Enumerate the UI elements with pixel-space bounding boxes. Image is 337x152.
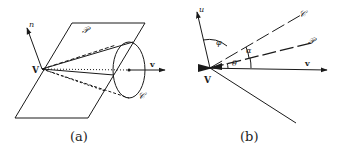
phi-arc	[203, 39, 227, 46]
label-cone-a: 𝒞	[138, 91, 147, 101]
label-n-a: n	[29, 20, 34, 29]
label-v-b: v	[304, 58, 310, 68]
label-cone-b: 𝒞	[299, 9, 308, 19]
caption-b: (b)	[240, 129, 258, 144]
cone-center-dot	[127, 68, 130, 71]
label-plane-a: 𝒫	[82, 25, 91, 35]
figure-canvas: n 𝒫 V v 𝒞 (a) u φ α θ 𝒞 𝒫 V v (b)	[0, 0, 337, 152]
label-vertex-b: V	[203, 75, 212, 85]
plane-line	[210, 43, 311, 68]
label-phi: φ	[216, 38, 222, 47]
normal-arrow	[27, 28, 42, 69]
theta-arc-outer	[250, 58, 251, 68]
label-alpha: α	[246, 46, 252, 55]
label-u-b: u	[199, 5, 204, 14]
label-vertex-a: V	[31, 65, 40, 75]
label-theta: θ	[232, 59, 237, 68]
cone-line	[210, 15, 301, 68]
label-v-a: v	[149, 59, 155, 69]
label-plane-b: 𝒫	[308, 36, 317, 46]
caption-a: (a)	[70, 129, 88, 144]
lower-line	[210, 68, 296, 123]
